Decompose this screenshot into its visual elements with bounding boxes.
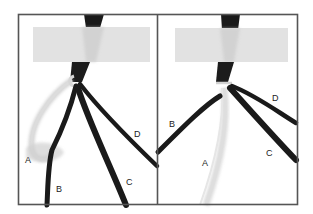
cord-b xyxy=(158,96,220,152)
label-a-right: A xyxy=(202,158,208,168)
cord-bundle xyxy=(70,62,90,82)
label-c-left: C xyxy=(126,177,133,187)
left-panel: A B C D xyxy=(25,14,157,205)
cord-top xyxy=(221,14,240,30)
label-d-right: D xyxy=(272,93,279,103)
cord-c xyxy=(230,88,296,160)
cord-c xyxy=(78,88,126,205)
cord-top xyxy=(84,14,104,28)
label-d-left: D xyxy=(134,129,141,139)
illustration-canvas: A B C D B A C xyxy=(0,0,313,214)
label-b-left: B xyxy=(56,184,62,194)
label-b-right: B xyxy=(169,119,175,129)
label-c-right: C xyxy=(266,148,273,158)
label-a-left: A xyxy=(25,155,31,165)
right-panel: B A C D xyxy=(158,14,296,205)
braiding-illustration: A B C D B A C xyxy=(0,0,313,214)
cord-bundle xyxy=(216,62,234,82)
